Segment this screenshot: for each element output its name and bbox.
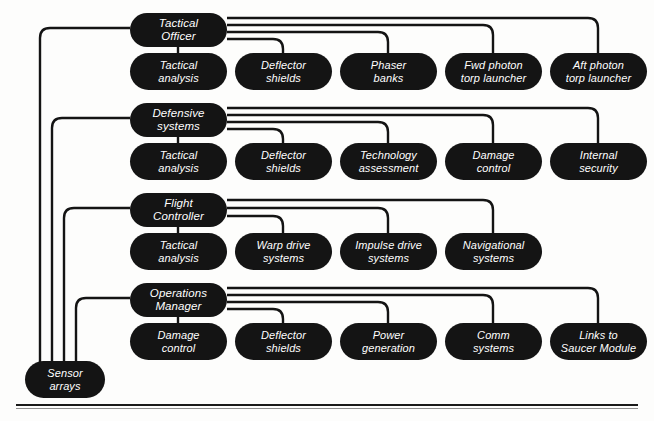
node-operations-manager-child-1[interactable]: Damage control <box>130 323 227 360</box>
node-operations-manager-child-2[interactable]: Deflector shields <box>235 323 332 360</box>
node-label: Internal security <box>579 149 618 175</box>
node-label: Phaser banks <box>371 59 406 85</box>
node-label: Fwd photon torp launcher <box>461 59 527 85</box>
node-tactical-officer-child-1[interactable]: Tactical analysis <box>130 53 227 90</box>
node-label: Links to Saucer Module <box>561 329 636 355</box>
node-tactical-officer-child-4[interactable]: Fwd photon torp launcher <box>445 53 542 90</box>
node-label: Power generation <box>362 329 415 355</box>
node-defensive-systems-child-4[interactable]: Damage control <box>445 143 542 180</box>
node-tactical-officer-child-5[interactable]: Aft photon torp launcher <box>550 53 647 90</box>
node-label: Aft photon torp launcher <box>566 59 632 85</box>
node-flight-controller-child-3[interactable]: Impulse drive systems <box>340 233 437 270</box>
footer-divider <box>16 404 638 406</box>
node-label: Damage control <box>472 149 514 175</box>
footer-divider-secondary <box>16 408 638 409</box>
node-flight-controller-child-1[interactable]: Tactical analysis <box>130 233 227 270</box>
node-label: Navigational systems <box>463 239 525 265</box>
node-defensive-systems-child-5[interactable]: Internal security <box>550 143 647 180</box>
node-label: Tactical analysis <box>158 239 199 265</box>
node-operations-manager-child-5[interactable]: Links to Saucer Module <box>550 323 647 360</box>
node-flight-controller-child-2[interactable]: Warp drive systems <box>235 233 332 270</box>
node-operations-manager[interactable]: Operations Manager <box>130 283 227 317</box>
node-label: Flight Controller <box>153 197 204 223</box>
node-label: Deflector shields <box>261 329 306 355</box>
node-label: Deflector shields <box>261 149 306 175</box>
node-label: Impulse drive systems <box>355 239 422 265</box>
node-label: Tactical analysis <box>158 59 199 85</box>
node-label: Deflector shields <box>261 59 306 85</box>
node-label: Technology assessment <box>359 149 419 175</box>
node-label: Tactical Officer <box>159 17 198 43</box>
node-label: Comm systems <box>473 329 514 355</box>
node-defensive-systems-child-3[interactable]: Technology assessment <box>340 143 437 180</box>
node-tactical-officer-child-2[interactable]: Deflector shields <box>235 53 332 90</box>
node-flight-controller-child-4[interactable]: Navigational systems <box>445 233 542 270</box>
node-label: Warp drive systems <box>257 239 311 265</box>
node-label: Defensive systems <box>152 107 204 133</box>
node-label: Tactical analysis <box>158 149 199 175</box>
node-defensive-systems-child-1[interactable]: Tactical analysis <box>130 143 227 180</box>
diagram-page: Tactical Officer Tactical analysis Defle… <box>0 0 654 421</box>
node-operations-manager-child-3[interactable]: Power generation <box>340 323 437 360</box>
node-tactical-officer-child-3[interactable]: Phaser banks <box>340 53 437 90</box>
node-tactical-officer[interactable]: Tactical Officer <box>130 13 227 47</box>
node-defensive-systems[interactable]: Defensive systems <box>130 103 227 137</box>
node-sensor-arrays[interactable]: Sensor arrays <box>25 361 105 398</box>
node-operations-manager-child-4[interactable]: Comm systems <box>445 323 542 360</box>
node-label: Operations Manager <box>150 287 207 313</box>
node-label: Damage control <box>157 329 199 355</box>
node-label: Sensor arrays <box>47 367 82 393</box>
node-flight-controller[interactable]: Flight Controller <box>130 193 227 227</box>
node-defensive-systems-child-2[interactable]: Deflector shields <box>235 143 332 180</box>
